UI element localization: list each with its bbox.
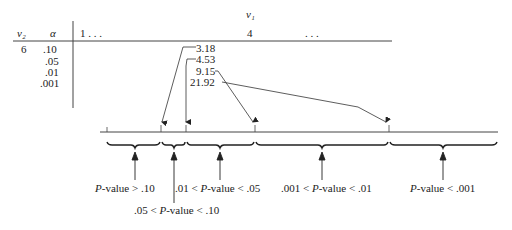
v2-header: v₂ <box>17 27 26 39</box>
diagram-lines <box>0 0 512 230</box>
connector-9.15 <box>215 71 253 122</box>
alpha-header: α <box>50 27 56 39</box>
column-selected: 4 <box>247 27 253 39</box>
critical-value: 4.53 <box>196 53 215 65</box>
v2-value: 6 <box>21 43 27 55</box>
interval-label-1: P-value > .10 <box>95 182 155 194</box>
connector-21.92 <box>222 82 386 122</box>
interval-label-4: .001 < P-value < .01 <box>281 182 372 194</box>
column-rest: . . . <box>305 27 319 39</box>
interval-label-3: .01 < P-value < .05 <box>175 182 260 194</box>
brace-2 <box>162 142 185 148</box>
column-first: 1 . . . <box>80 27 102 39</box>
interval-label-2: .05 < P-value < .10 <box>134 204 219 216</box>
interval-label-5: P-value < .001 <box>410 182 475 194</box>
brace-4 <box>256 142 388 148</box>
connector-4.53 <box>186 59 196 122</box>
alpha-value: .001 <box>40 77 59 89</box>
brace-3 <box>187 142 254 148</box>
alpha-value: .10 <box>43 43 57 55</box>
brace-1 <box>107 142 160 148</box>
v1-header: v₁ <box>246 8 255 20</box>
brace-5 <box>390 142 497 148</box>
critical-value: 21.92 <box>190 76 215 88</box>
